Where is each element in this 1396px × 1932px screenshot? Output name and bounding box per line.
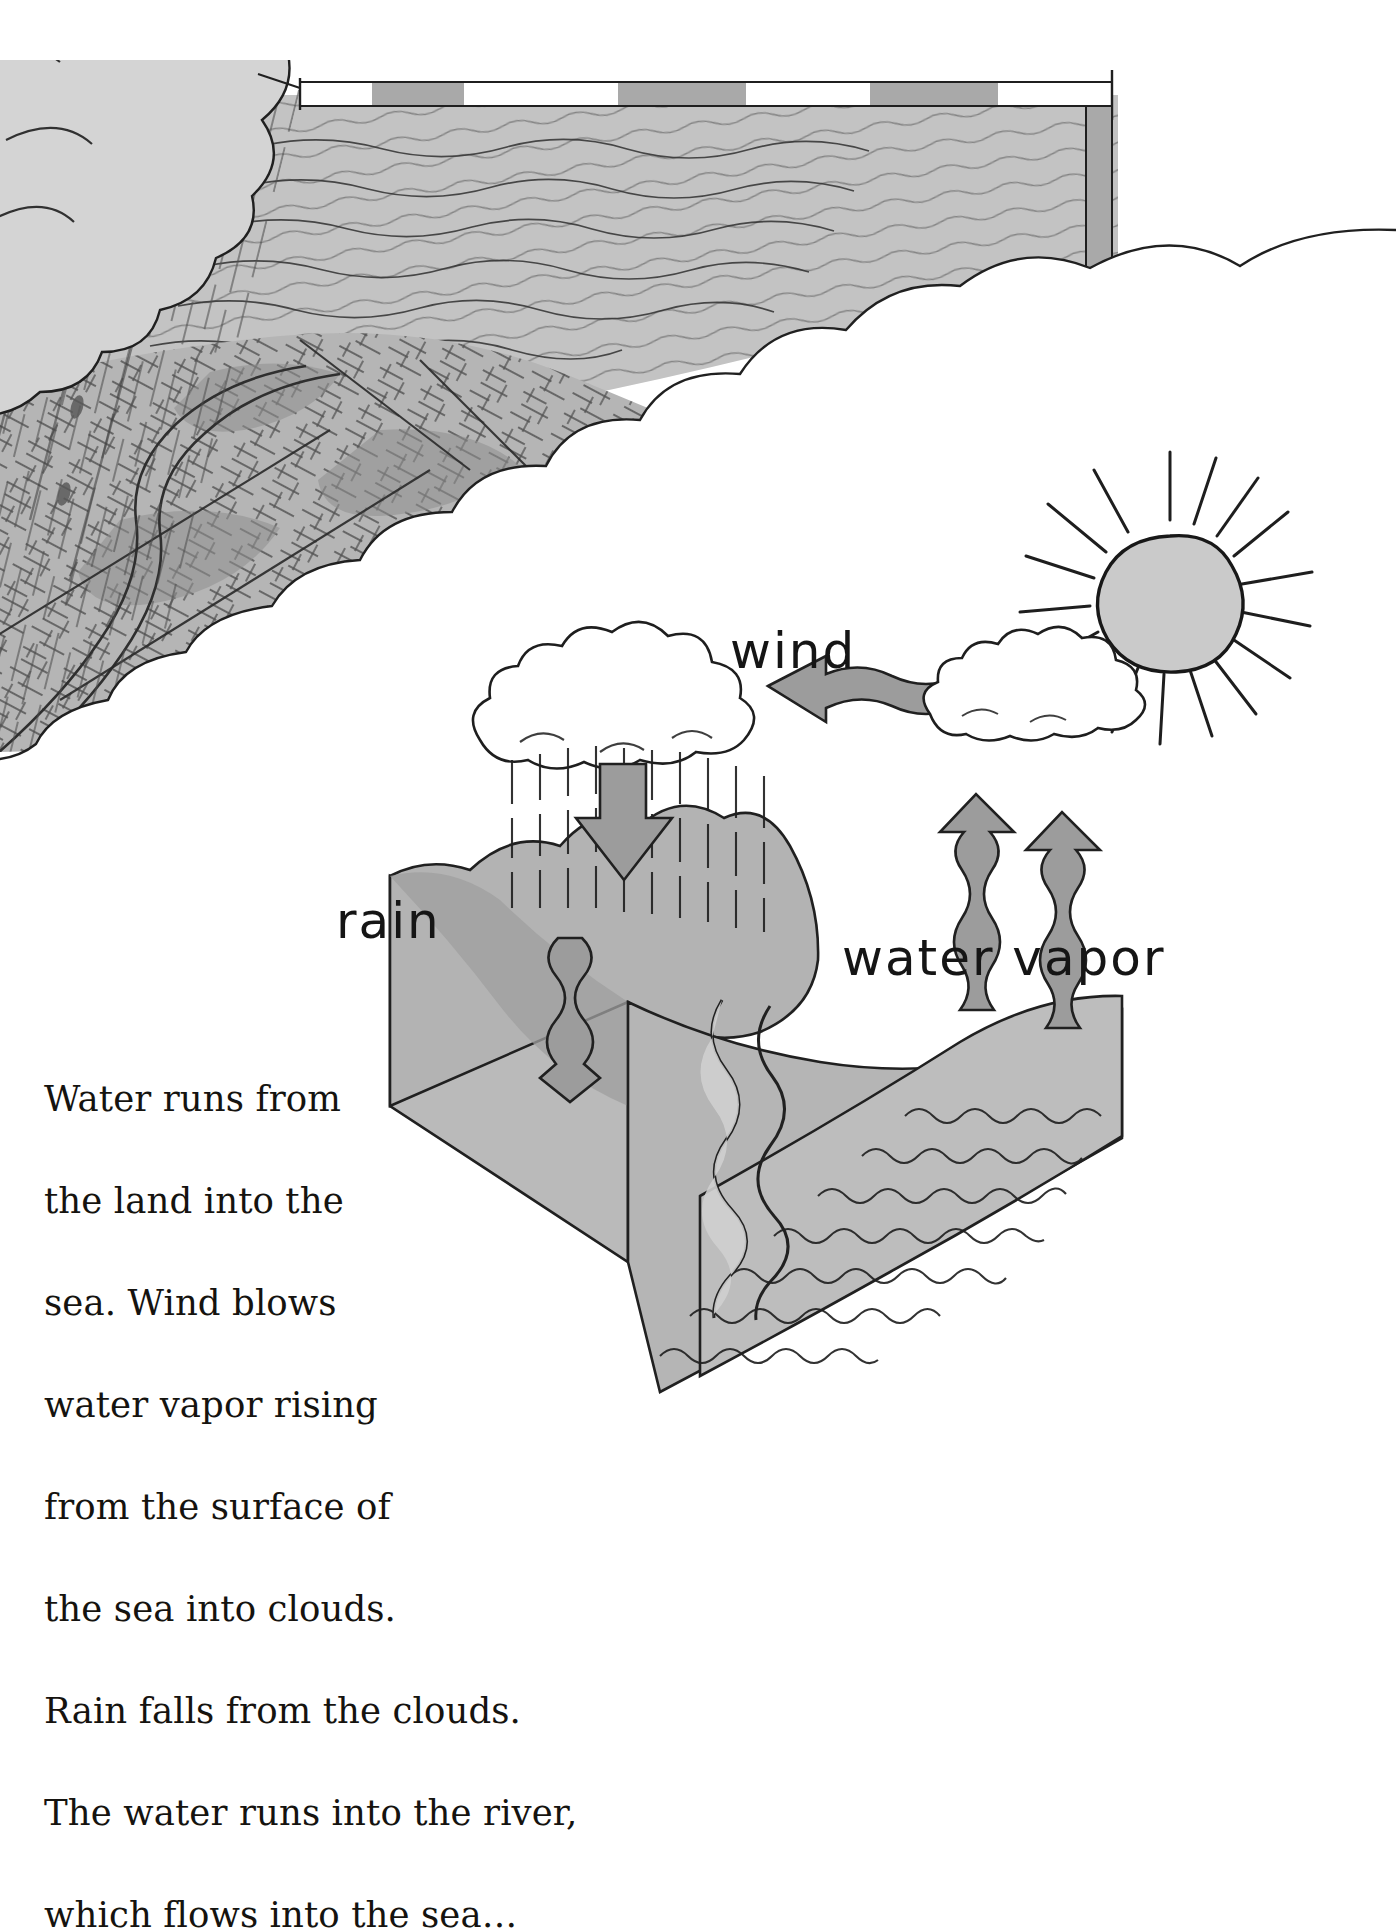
caption-line: water vapor rising (44, 1379, 604, 1430)
caption-paragraph: Water runs from the land into the sea. W… (44, 1022, 604, 1932)
caption-line: the land into the (44, 1175, 604, 1226)
caption-line: which flows into the sea… (44, 1889, 604, 1932)
caption-line: Water runs from (44, 1073, 604, 1124)
caption-line: Rain falls from the clouds. (44, 1685, 604, 1736)
caption-line: The water runs into the river, (44, 1787, 604, 1838)
caption-line: sea. Wind blows (44, 1277, 604, 1328)
caption-line: the sea into clouds. (44, 1583, 604, 1634)
caption-line: from the surface of (44, 1481, 604, 1532)
